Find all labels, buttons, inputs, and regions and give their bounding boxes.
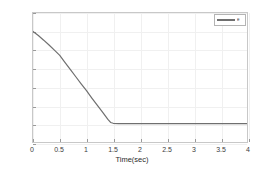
legend-entry: e (217, 18, 243, 23)
data-series-curve (33, 13, 247, 142)
x-tick-label: 1.5 (108, 146, 118, 153)
plot-area: e (32, 12, 248, 143)
gridline-vertical (249, 13, 250, 142)
x-tick-label: 1 (84, 146, 88, 153)
x-tick-label: 3.5 (216, 146, 226, 153)
legend-label: e (237, 18, 240, 23)
legend-box: e (214, 14, 246, 26)
y-tick-mark (33, 144, 36, 145)
x-tick-mark (249, 139, 250, 142)
x-tick-label: 3 (192, 146, 196, 153)
x-tick-label: 2.5 (162, 146, 172, 153)
x-tick-label: 0.5 (54, 146, 64, 153)
x-tick-label: 0 (30, 146, 34, 153)
x-axis-label: Time(sec) (0, 155, 264, 164)
legend-line-swatch (217, 19, 235, 21)
x-tick-label: 4 (246, 146, 250, 153)
gridline-horizontal (33, 144, 247, 145)
x-tick-label: 2 (138, 146, 142, 153)
figure-canvas: 1.210.80.60.40.20-0.2 00.511.522.533.54 … (0, 0, 264, 173)
